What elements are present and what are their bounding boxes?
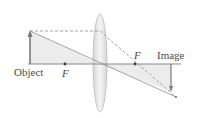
convergence-point (175, 96, 177, 98)
focal-right-label: F (133, 49, 141, 61)
focal-left-label: F (61, 67, 69, 79)
ray-diagram: Object F F Image (0, 0, 197, 118)
image-label: Image (157, 49, 185, 61)
focal-point-left (64, 63, 67, 66)
object-label: Object (14, 66, 43, 78)
focal-point-right (134, 63, 137, 66)
image-shade-triangle (100, 64, 171, 92)
